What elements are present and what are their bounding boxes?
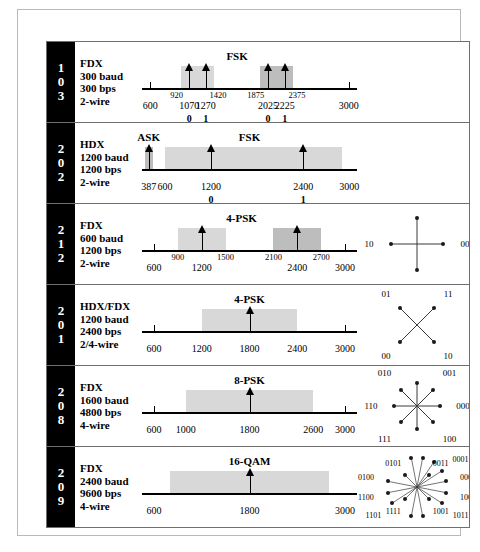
axis-frequency-label: 1200: [201, 181, 221, 192]
modulation-label: 4-PSK: [234, 293, 265, 305]
constellation-point-label: 010: [378, 368, 392, 378]
modem-specs: HDX1200 baud1200 bps2-wire: [80, 138, 129, 188]
carrier-arrow: [268, 70, 269, 88]
constellation-diagram: 01110010: [365, 285, 469, 365]
constellation-point: [415, 381, 419, 385]
band-edge-label: 1875: [247, 90, 264, 100]
standard-digit: 2: [58, 385, 65, 399]
table-row: 212FDX600 baud1200 bps2-wire4-PSK6001200…: [47, 204, 469, 285]
constellation-point: [421, 514, 425, 518]
spec-line: 2-wire: [80, 95, 123, 108]
spec-line: FDX: [80, 462, 129, 475]
axis-frequency-label: 3000: [335, 343, 355, 354]
carrier-arrow: [211, 151, 212, 169]
modulation-label: FSK: [239, 131, 260, 143]
carrier-arrow: [250, 475, 251, 493]
constellation-point: [444, 479, 448, 483]
carrier-bit-label: 0: [209, 194, 214, 204]
band-edge-label: 1500: [217, 252, 234, 262]
band-edge-label: 2100: [265, 252, 282, 262]
constellation-point-label: 111: [378, 434, 391, 444]
axis-frequency-label: 1270: [196, 100, 216, 111]
modem-specs: HDX/FDX1200 baud2400 bps2/4-wire: [80, 300, 130, 350]
constellation-point: [415, 216, 419, 220]
carrier-arrow: [206, 70, 207, 88]
constellation-point: [431, 388, 435, 392]
constellation-point: [444, 491, 448, 495]
constellation-point-label: 100: [443, 434, 457, 444]
axis-frequency-label: 3000: [335, 505, 355, 516]
spec-line: HDX/FDX: [80, 300, 130, 313]
constellation-point: [403, 473, 407, 477]
constellation-point: [398, 306, 402, 310]
frequency-axis-line: [142, 412, 357, 414]
figure-outer-frame: 103FDX300 baud300 bps2-wireFSK6001070127…: [17, 9, 461, 536]
modem-specs: FDX600 baud1200 bps2-wire: [80, 219, 123, 269]
standard-digit: 2: [58, 142, 65, 156]
constellation-point: [399, 388, 403, 392]
standard-number-cell: 103: [47, 42, 75, 122]
constellation-point-label: 1101: [366, 511, 382, 520]
constellation-point: [415, 268, 419, 272]
standard-digit: 1: [58, 332, 65, 346]
spec-line: 600 baud: [80, 231, 123, 244]
spec-line: 300 bps: [80, 82, 123, 95]
axis-frequency-label: 2400: [293, 181, 313, 192]
standard-number-cell: 209: [47, 447, 75, 527]
constellation-point-label: 110: [364, 401, 377, 411]
constellation-point: [431, 420, 435, 424]
constellation-point: [440, 469, 444, 473]
constellation-point-label: 1001: [433, 506, 449, 515]
constellation-point-label: 10: [444, 351, 453, 361]
standard-digit: 9: [58, 494, 65, 508]
frequency-spectrum: 16-QAM60018003000: [142, 447, 357, 527]
standard-digit: 1: [58, 61, 65, 75]
standard-digit: 8: [58, 413, 65, 427]
axis-tick: [345, 406, 346, 412]
axis-tick: [154, 244, 155, 250]
constellation-point: [432, 306, 436, 310]
band-edge-label: 2700: [313, 252, 330, 262]
spec-line: 2-wire: [80, 176, 129, 189]
axis-tick: [154, 325, 155, 331]
spec-line: HDX: [80, 138, 129, 151]
constellation-point: [389, 242, 393, 246]
constellation-point-label: 1111: [386, 506, 401, 515]
constellation-point-label: 0101: [385, 459, 401, 468]
constellation-point-label: 1100: [358, 492, 374, 501]
carrier-arrow: [202, 232, 203, 250]
constellation-point: [390, 501, 394, 505]
axis-tick: [345, 325, 346, 331]
spec-line: 4-wire: [80, 419, 129, 432]
standard-digit: 1: [58, 237, 65, 251]
axis-frequency-label: 3000: [339, 100, 359, 111]
spec-line: FDX: [80, 381, 129, 394]
constellation-point: [409, 456, 413, 460]
axis-frequency-label: 600: [146, 262, 161, 273]
axis-tick: [150, 82, 151, 88]
constellation-point-label: 000: [456, 401, 469, 411]
axis-frequency-label: 600: [158, 181, 173, 192]
spec-line: 1200 baud: [80, 150, 129, 163]
constellation-point: [440, 501, 444, 505]
standard-number-cell: 208: [47, 366, 75, 446]
modem-specs: FDX1600 baud4800 bps4-wire: [80, 381, 129, 431]
axis-frequency-label: 2600: [303, 424, 323, 435]
carrier-arrow: [189, 70, 190, 88]
axis-frequency-label: 1800: [240, 343, 260, 354]
carrier-arrow: [297, 232, 298, 250]
modem-specs: FDX2400 baud9600 bps4-wire: [80, 462, 129, 512]
constellation-diagram: 000001011010110111101100: [365, 366, 469, 446]
constellation-point-label: 1000: [460, 492, 469, 501]
modulation-label: 16-QAM: [229, 455, 271, 467]
carrier-bit-label: 1: [282, 113, 287, 123]
carrier-bit-label: 0: [187, 113, 192, 123]
constellation-point: [392, 404, 396, 408]
modulation-label: FSK: [226, 50, 247, 62]
standard-digit: 2: [58, 170, 65, 184]
constellation-point: [386, 491, 390, 495]
spec-line: 1200 baud: [80, 312, 130, 325]
standard-digit: 0: [58, 75, 65, 89]
axis-frequency-label: 3000: [335, 424, 355, 435]
table-row: 201HDX/FDX1200 baud2400 bps2/4-wire4-PSK…: [47, 285, 469, 366]
